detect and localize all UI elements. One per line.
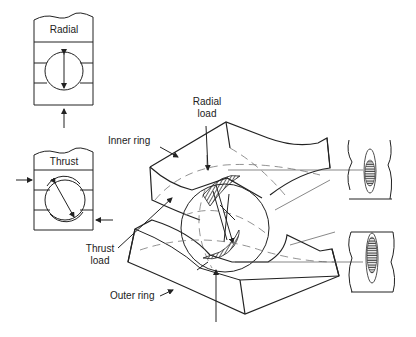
outer-ring-label: Outer ring (110, 290, 154, 302)
upper-contact-detail (348, 140, 392, 199)
lower-contact-ellipse (367, 237, 377, 273)
inner-ring-label: Inner ring (108, 135, 150, 147)
outer-ring-leader (160, 290, 173, 296)
upper-contact-ellipse (365, 160, 375, 186)
radial-inset-label: Radial (44, 24, 84, 36)
bearing-diagram (0, 0, 416, 337)
thrust-load-leader (118, 198, 172, 248)
thrust-inset-label: Thrust (42, 156, 86, 168)
upper-contact-patch (203, 175, 240, 206)
inner-ring (150, 122, 330, 220)
thrust-angled-load-arrow-icon (55, 183, 74, 217)
bearing-assembly (128, 122, 363, 322)
lower-contact-patch (203, 230, 239, 259)
outer-ring (128, 220, 339, 314)
radial-load-label: Radial load (185, 96, 229, 120)
radial-inset-break-edge (34, 13, 93, 20)
thrust-load-label: Thrust load (78, 243, 122, 267)
